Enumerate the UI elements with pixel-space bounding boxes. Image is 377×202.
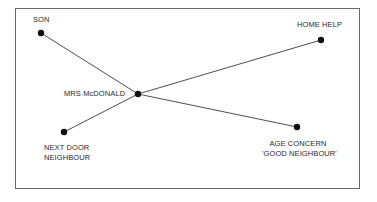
edge-age-concern <box>138 94 297 127</box>
network-diagram <box>0 0 377 202</box>
label-mrs-mcdonald: MRS McDONALD <box>64 89 125 99</box>
label-next-door-line2: NEIGHBOUR <box>44 153 88 163</box>
label-next-door-neighbour: NEXT DOOR NEIGHBOUR <box>44 143 88 162</box>
edge-son <box>41 33 138 94</box>
label-age-concern-line1: AGE CONCERN <box>262 139 334 149</box>
label-home-help: HOME HELP <box>297 20 342 30</box>
node-next-door-neighbour <box>61 129 67 135</box>
node-son <box>38 30 44 36</box>
edge-next-door-neighbour <box>64 94 138 132</box>
nodes <box>38 30 324 135</box>
node-home-help <box>318 37 324 43</box>
label-next-door-line1: NEXT DOOR <box>44 143 88 153</box>
edge-home-help <box>138 40 321 94</box>
node-age-concern <box>294 124 300 130</box>
node-mrs-mcdonald <box>135 91 141 97</box>
label-age-concern: AGE CONCERN 'GOOD NEIGHBOUR' <box>262 139 334 158</box>
edges <box>41 33 321 132</box>
label-son: SON <box>33 15 50 25</box>
label-age-concern-line2: 'GOOD NEIGHBOUR' <box>262 149 334 159</box>
